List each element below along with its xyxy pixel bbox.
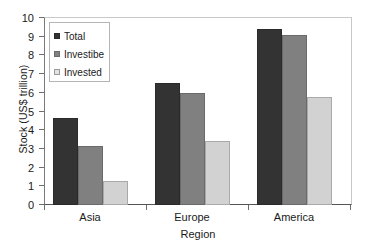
- y-tick: 4: [0, 124, 44, 136]
- y-tick: 2: [0, 162, 44, 174]
- y-axis-ticks: 109876543210: [0, 0, 44, 247]
- legend-label: Invested: [64, 67, 102, 78]
- x-axis-title: Region: [44, 228, 352, 240]
- legend-item: Invested: [54, 63, 106, 81]
- bar: [155, 83, 180, 205]
- legend-swatch-icon: [54, 51, 60, 57]
- y-tick: 9: [0, 31, 44, 43]
- y-tick-label: 0: [28, 199, 34, 211]
- bar: [257, 29, 282, 205]
- bar: [78, 146, 103, 205]
- legend-item: Total: [54, 27, 106, 45]
- bar: [103, 181, 128, 205]
- x-tick-label: Europe: [174, 210, 209, 224]
- y-tick-label: 3: [28, 143, 34, 155]
- bar: [180, 93, 205, 205]
- y-tick: 3: [0, 143, 44, 155]
- y-tick: 10: [0, 12, 44, 24]
- bar: [282, 35, 307, 205]
- y-tick-label: 2: [28, 162, 34, 174]
- y-tick-label: 4: [28, 124, 34, 136]
- legend-swatch-icon: [54, 33, 60, 39]
- y-tick-label: 8: [28, 49, 34, 61]
- y-tick-label: 1: [28, 180, 34, 192]
- y-tick: 6: [0, 87, 44, 99]
- y-tick-label: 5: [28, 106, 34, 118]
- y-tick: 0: [0, 199, 44, 211]
- y-tick-label: 10: [22, 12, 34, 24]
- bar-chart: Stock (US$ trillion) 109876543210 AsiaEu…: [0, 0, 390, 247]
- y-tick: 8: [0, 49, 44, 61]
- legend-label: Investibe: [64, 49, 104, 60]
- y-tick: 1: [0, 180, 44, 192]
- legend-swatch-icon: [54, 69, 60, 75]
- x-axis-labels: AsiaEuropeAmerica: [44, 210, 352, 226]
- y-tick-label: 7: [28, 68, 34, 80]
- legend-label: Total: [64, 31, 85, 42]
- bar: [53, 118, 78, 205]
- y-tick: 5: [0, 106, 44, 118]
- legend-item: Investibe: [54, 45, 106, 63]
- y-tick: 7: [0, 68, 44, 80]
- y-tick-label: 6: [28, 87, 34, 99]
- bar: [205, 141, 230, 205]
- bar: [307, 97, 332, 205]
- y-tick-label: 9: [28, 31, 34, 43]
- x-tick-label: America: [274, 210, 314, 224]
- x-tick-label: Asia: [79, 210, 100, 224]
- chart-legend: TotalInvestibeInvested: [49, 22, 110, 82]
